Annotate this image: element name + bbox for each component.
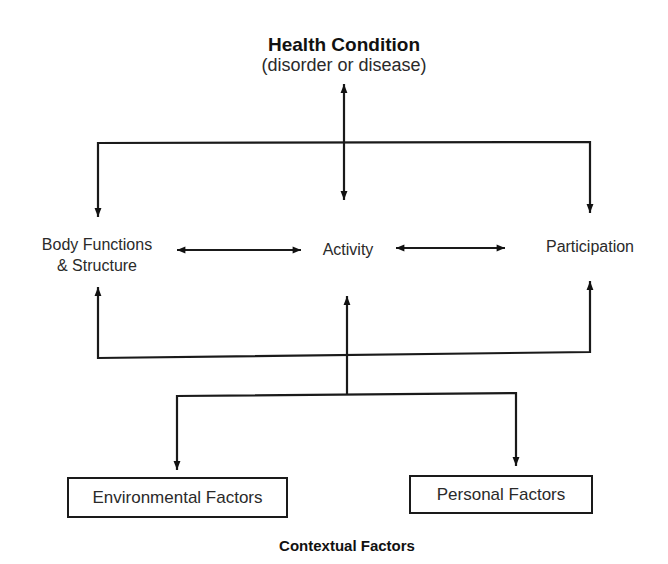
icf-diagram: Health Condition (disorder or disease) B… xyxy=(0,0,668,564)
node-participation: Participation xyxy=(530,236,650,257)
node-body-functions-line1: Body Functions xyxy=(22,234,172,255)
context-split-line xyxy=(177,393,516,470)
environmental-factors-box: Environmental Factors xyxy=(67,477,288,518)
personal-factors-label: Personal Factors xyxy=(437,485,566,505)
bottom-bus-line xyxy=(98,281,590,358)
node-body-functions: Body Functions & Structure xyxy=(22,234,172,276)
personal-factors-box: Personal Factors xyxy=(409,475,593,514)
node-body-functions-line2: & Structure xyxy=(22,255,172,276)
environmental-factors-label: Environmental Factors xyxy=(92,488,262,508)
contextual-factors-label: Contextual Factors xyxy=(247,537,447,554)
node-activity: Activity xyxy=(300,239,396,260)
health-condition-subtitle: (disorder or disease) xyxy=(244,55,444,76)
health-condition-title: Health Condition xyxy=(244,34,444,56)
